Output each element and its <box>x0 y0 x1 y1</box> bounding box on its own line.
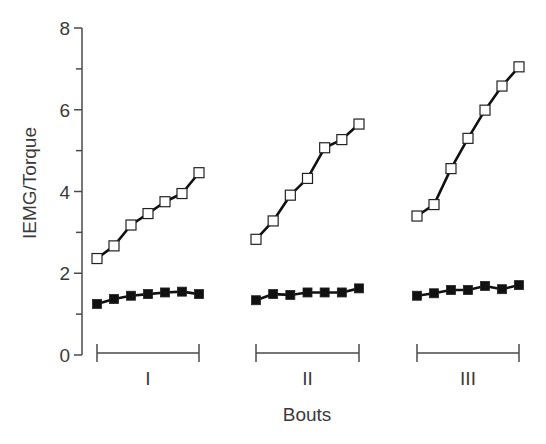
open-square-marker <box>463 133 473 143</box>
bracket-bout-III: III <box>417 344 519 389</box>
open-square-marker <box>109 241 119 251</box>
filled-square-marker <box>178 287 187 296</box>
filled-square-marker <box>303 288 312 297</box>
filled-square-marker <box>464 286 473 295</box>
filled-square-marker <box>252 296 261 305</box>
bracket-bout-I: I <box>97 344 199 389</box>
filled-square-marker <box>144 290 153 299</box>
y-tick-label: 8 <box>59 18 70 39</box>
bout-brackets: IIIIII <box>97 344 519 389</box>
open-square-marker <box>412 211 422 221</box>
open-square-marker <box>446 164 456 174</box>
open-square-marker <box>143 209 153 219</box>
open-square-marker <box>251 234 261 244</box>
filled-square-marker <box>413 291 422 300</box>
bout-label: II <box>302 368 313 389</box>
series-open-squares-bout-III <box>412 62 524 221</box>
bout-label: III <box>460 368 476 389</box>
filled-square-marker <box>161 288 170 297</box>
open-square-marker <box>194 168 204 178</box>
open-square-marker <box>497 81 507 91</box>
filled-square-marker <box>110 295 119 304</box>
open-square-marker <box>92 254 102 264</box>
filled-square-marker <box>337 288 346 297</box>
filled-square-marker <box>93 299 102 308</box>
filled-square-marker <box>355 284 364 293</box>
bout-label: I <box>145 368 150 389</box>
open-square-marker <box>268 216 278 226</box>
open-square-marker <box>126 220 136 230</box>
x-axis-label: Bouts <box>283 404 332 425</box>
filled-square-marker <box>498 285 507 294</box>
series-filled-squares-bout-I <box>93 287 204 308</box>
y-tick-label: 6 <box>59 100 70 121</box>
open-square-marker <box>285 190 295 200</box>
chart-canvas: 02468 IIIIII IEMG/Torque Bouts <box>0 0 546 444</box>
open-square-marker <box>480 105 490 115</box>
bracket-bout-II: II <box>256 344 359 389</box>
filled-square-marker <box>269 290 278 299</box>
open-square-marker <box>303 173 313 183</box>
filled-square-marker <box>447 286 456 295</box>
y-axis: 02468 <box>59 18 82 366</box>
series-filled-squares-bout-III <box>413 281 524 301</box>
series-filled-squares-bout-II <box>252 284 364 305</box>
open-square-marker <box>320 143 330 153</box>
open-square-marker <box>514 62 524 72</box>
y-tick-label: 0 <box>59 345 70 366</box>
open-square-marker <box>429 200 439 210</box>
filled-square-marker <box>286 290 295 299</box>
filled-square-marker <box>195 290 204 299</box>
plot-area <box>92 62 524 309</box>
filled-square-marker <box>127 291 136 300</box>
series-open-squares-bout-I <box>92 168 204 264</box>
y-axis-label: IEMG/Torque <box>19 127 40 239</box>
filled-square-marker <box>320 288 329 297</box>
filled-square-marker <box>430 289 439 298</box>
open-square-marker <box>337 135 347 145</box>
open-square-marker <box>354 119 364 129</box>
open-square-marker <box>160 197 170 207</box>
series-open-squares-bout-II <box>251 119 364 244</box>
filled-square-marker <box>481 281 490 290</box>
chart: 02468 IIIIII IEMG/Torque Bouts <box>0 0 546 444</box>
y-tick-label: 4 <box>59 182 70 203</box>
open-square-marker <box>177 189 187 199</box>
y-tick-label: 2 <box>59 263 70 284</box>
filled-square-marker <box>515 281 524 290</box>
